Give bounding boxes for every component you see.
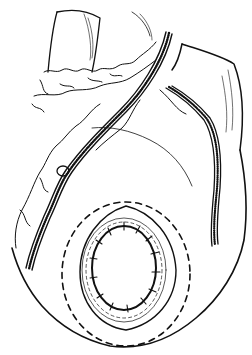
illustration (0, 0, 252, 355)
upper-bowel-loop (48, 10, 152, 72)
dashed-outer-ring (62, 202, 190, 346)
sutures (90, 222, 160, 312)
right-vessel (160, 86, 221, 246)
